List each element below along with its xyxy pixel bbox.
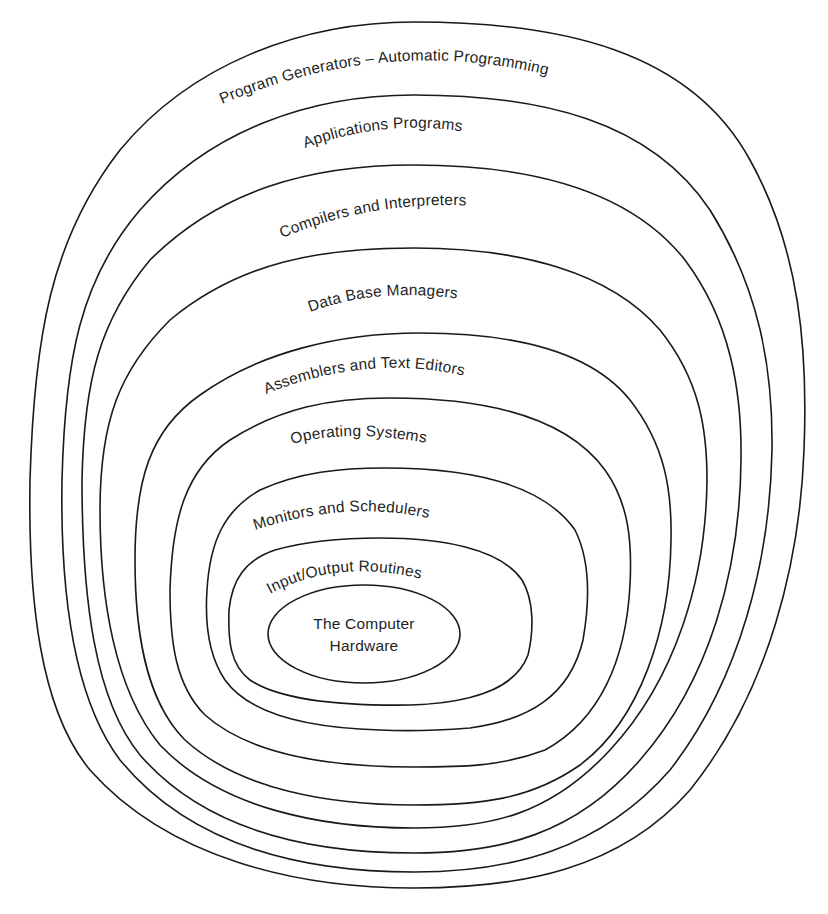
layer-label-hardware-line2: Hardware — [330, 637, 399, 654]
layer-label-program-generators: Program Generators – Automatic Programmi… — [217, 46, 551, 106]
layer-1-boundary — [30, 22, 805, 888]
layer-label-compilers-interpreters: Compilers and Interpreters — [277, 191, 467, 241]
layer-6-boundary — [170, 398, 631, 767]
layer-label-operating-systems: Operating Systems — [289, 422, 429, 447]
layer-label-monitors-schedulers: Monitors and Schedulers — [251, 497, 432, 533]
layer-label-assemblers-text-editors: Assemblers and Text Editors — [261, 354, 467, 397]
layer-label-hardware-line1: The Computer — [313, 615, 414, 632]
software-layers-diagram: Program Generators – Automatic Programmi… — [0, 0, 828, 914]
layer-2-boundary — [62, 95, 772, 872]
layer-label-io-routines: Input/Output Routines — [263, 557, 423, 596]
layer-label-data-base-managers: Data Base Managers — [305, 281, 459, 315]
layer-label-applications-programs: Applications Programs — [300, 114, 463, 151]
hardware-core-boundary — [268, 585, 460, 683]
